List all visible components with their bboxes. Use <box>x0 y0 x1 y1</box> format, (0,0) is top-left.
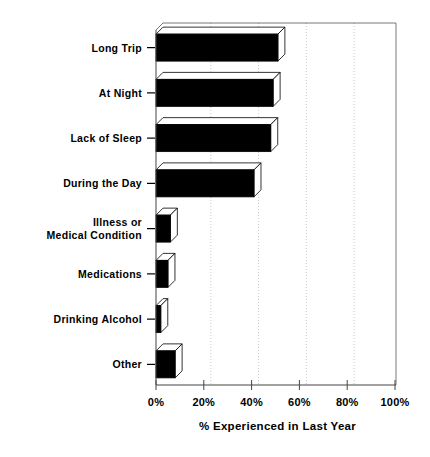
category-label-5: Illness or <box>93 216 142 228</box>
category-label-3: Lack of Sleep <box>70 132 142 144</box>
category-label-2: At Night <box>99 87 142 99</box>
category-label-1: Long Trip <box>91 42 142 54</box>
bar-top-face <box>156 72 280 79</box>
bar-1[interactable] <box>156 27 285 61</box>
category-label-8: Other <box>112 358 142 370</box>
bar-front-face <box>156 351 175 378</box>
x-tick-label-60: 60% <box>288 396 311 408</box>
bar-chart: 0%20%40%60%80%100%% Experienced in Last … <box>0 0 430 457</box>
category-label-6: Medications <box>78 268 142 280</box>
bar-front-face <box>156 215 170 242</box>
category-label-7: Drinking Alcohol <box>54 313 142 325</box>
bar-8[interactable] <box>156 344 182 378</box>
bar-7[interactable] <box>156 299 168 333</box>
bar-front-face <box>156 260 168 287</box>
bar-4[interactable] <box>156 163 261 197</box>
bar-top-face <box>156 163 261 170</box>
x-tick-label-80: 80% <box>336 396 359 408</box>
bar-front-face <box>156 34 278 61</box>
bar-front-face <box>156 306 161 333</box>
category-label-4: During the Day <box>63 177 142 189</box>
x-axis-title: % Experienced in Last Year <box>199 420 356 432</box>
chart-canvas: 0%20%40%60%80%100%% Experienced in Last … <box>0 0 430 457</box>
bar-6[interactable] <box>156 253 175 287</box>
bar-front-face <box>156 79 273 106</box>
bar-5[interactable] <box>156 208 177 242</box>
x-tick-label-40: 40% <box>240 396 263 408</box>
bar-2[interactable] <box>156 72 280 106</box>
bar-top-face <box>156 27 285 34</box>
bar-front-face <box>156 170 254 197</box>
category-labels-group: Long TripAt NightLack of SleepDuring the… <box>46 42 155 371</box>
x-tick-label-0: 0% <box>148 396 164 408</box>
x-tick-label-20: 20% <box>192 396 215 408</box>
category-label-5: Medical Condition <box>46 229 142 241</box>
bar-top-face <box>156 118 278 125</box>
x-tick-label-100: 100% <box>381 396 410 408</box>
bars-group <box>156 27 285 378</box>
bar-3[interactable] <box>156 118 278 152</box>
bar-front-face <box>156 125 271 152</box>
